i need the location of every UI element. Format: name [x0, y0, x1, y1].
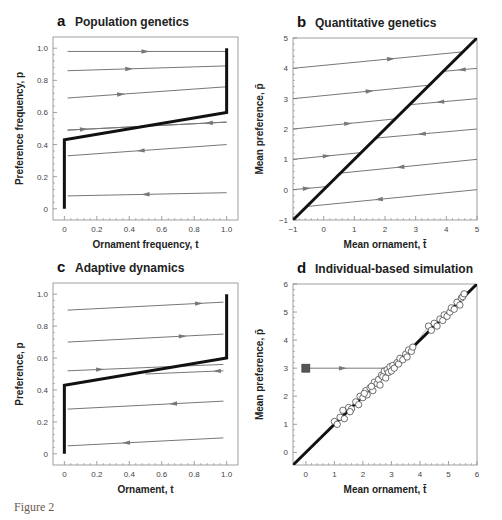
- x-tick-label: 2: [361, 470, 366, 479]
- x-tick-label: 3: [413, 225, 418, 234]
- trajectory-line: [308, 190, 477, 207]
- panel-c: cAdaptive dynamics00.20.40.60.81.000.20.…: [14, 258, 238, 495]
- y-tick-label: 1: [284, 420, 289, 429]
- x-axis-title: Ornament frequency, t: [93, 239, 200, 250]
- x-tick-label: 5: [475, 225, 480, 234]
- y-axis-title: Preference, p: [14, 342, 25, 405]
- simulation-point: [341, 415, 347, 421]
- y-tick-label: 2: [284, 125, 289, 134]
- figure-canvas: aPopulation genetics00.20.40.60.81.000.2…: [0, 0, 502, 520]
- simulation-point: [461, 291, 467, 297]
- y-tick-label: 3: [284, 95, 289, 104]
- simulation-point: [355, 401, 361, 407]
- simulation-point: [404, 354, 410, 360]
- x-tick-label: 4: [418, 470, 423, 479]
- y-tick-label: 0.8: [37, 322, 49, 331]
- direction-arrow-icon: [142, 49, 150, 53]
- panel-title: Population genetics: [75, 15, 189, 29]
- trajectory-line: [68, 87, 227, 98]
- x-tick-label: 0.8: [189, 470, 201, 479]
- panel-letter: b: [297, 13, 306, 30]
- x-tick-label: 0.2: [91, 225, 103, 234]
- x-tick-label: 0.4: [124, 225, 136, 234]
- direction-arrow-icon: [142, 192, 150, 196]
- trajectory-line: [376, 129, 477, 138]
- x-tick-label: 1.0: [221, 470, 233, 479]
- y-tick-label: 0: [284, 448, 289, 457]
- panel-a: aPopulation genetics00.20.40.60.81.000.2…: [14, 12, 238, 250]
- y-axis-title: Mean preference, p̄: [254, 83, 265, 174]
- x-tick-label: 3: [389, 470, 394, 479]
- y-tick-label: 0.8: [37, 76, 49, 85]
- panel-b: bQuantitative genetics−1012345−1012345Me…: [254, 13, 480, 250]
- y-tick-label: 0.2: [37, 418, 49, 427]
- y-tick-label: 1: [284, 155, 289, 164]
- direction-arrow-icon: [365, 89, 373, 93]
- x-tick-label: 0.2: [91, 470, 103, 479]
- y-tick-label: 3: [284, 364, 289, 373]
- simulation-point: [434, 323, 440, 329]
- trajectory-line: [68, 364, 224, 370]
- simulation-point: [457, 302, 463, 308]
- simulation-point: [368, 383, 374, 389]
- panel-letter: c: [57, 258, 65, 275]
- x-tick-label: 0: [62, 470, 67, 479]
- y-tick-label: 0.4: [37, 386, 49, 395]
- trajectory-line: [293, 85, 431, 99]
- y-tick-label: −1: [279, 216, 289, 225]
- direction-arrow-icon: [344, 122, 352, 126]
- y-tick-label: 0.6: [37, 108, 49, 117]
- y-tick-label: 6: [284, 280, 289, 289]
- y-tick-label: 0.4: [37, 141, 49, 150]
- x-tick-label: 6: [475, 470, 480, 479]
- simulation-point: [410, 344, 416, 350]
- x-tick-label: 4: [444, 225, 449, 234]
- x-tick-label: 0: [321, 225, 326, 234]
- y-tick-label: 1.0: [37, 290, 49, 299]
- direction-arrow-icon: [418, 131, 426, 135]
- y-tick-label: 0.2: [37, 173, 49, 182]
- simulation-point: [451, 306, 457, 312]
- y-tick-label: 4: [284, 64, 289, 73]
- x-tick-label: 1.0: [221, 225, 233, 234]
- y-axis-title: Preference frequency, p: [14, 72, 25, 185]
- start-point-marker: [302, 364, 310, 372]
- simulation-point: [428, 327, 434, 333]
- direction-arrow-icon: [125, 67, 133, 71]
- direction-arrow-icon: [375, 197, 383, 201]
- direction-arrow-icon: [458, 67, 466, 71]
- trajectory-line: [293, 52, 465, 69]
- x-tick-label: 5: [446, 470, 451, 479]
- x-axis-title: Mean ornament, t̄: [344, 239, 427, 250]
- x-tick-label: 0: [62, 225, 67, 234]
- simulation-point: [361, 390, 367, 396]
- trajectory-line: [293, 119, 394, 129]
- x-tick-label: 0.8: [189, 225, 201, 234]
- simulation-point: [334, 421, 340, 427]
- x-tick-label: 0: [304, 470, 309, 479]
- y-tick-label: 0: [284, 186, 289, 195]
- panel-title: Quantitative genetics: [315, 16, 437, 30]
- trajectory-line: [68, 334, 224, 342]
- x-tick-label: −1: [288, 225, 298, 234]
- figure-caption: Figure 2: [14, 500, 54, 515]
- direction-arrow-icon: [303, 187, 311, 191]
- y-tick-label: 1.0: [37, 44, 49, 53]
- panel-letter: d: [297, 259, 306, 276]
- panel-title: Individual-based simulation: [315, 262, 473, 276]
- direction-arrow-icon: [339, 366, 347, 370]
- trajectory-line: [342, 159, 477, 173]
- y-tick-label: 0: [44, 205, 49, 214]
- direction-arrow-icon: [96, 367, 104, 371]
- x-axis-title: Ornament, t: [117, 484, 174, 495]
- trajectory-line: [68, 438, 224, 446]
- x-axis-title: Mean ornament, t̄: [344, 484, 427, 495]
- y-tick-label: 5: [284, 34, 289, 43]
- y-tick-label: 5: [284, 308, 289, 317]
- panel-d: dIndividual-based simulation012345601234…: [254, 259, 480, 495]
- x-tick-label: 1: [332, 470, 337, 479]
- simulation-point: [347, 408, 353, 414]
- trajectory-line: [68, 401, 224, 409]
- direction-arrow-icon: [387, 57, 395, 61]
- direction-arrow-icon: [323, 154, 331, 158]
